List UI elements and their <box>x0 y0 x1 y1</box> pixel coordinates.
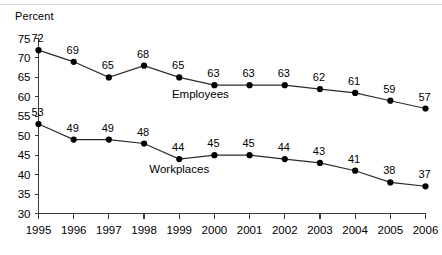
y-tick-label: 60 <box>18 91 31 103</box>
x-tick-label: 2005 <box>378 224 404 236</box>
x-tick-label: 2003 <box>307 224 333 236</box>
data-point-employees-1996 <box>71 59 77 65</box>
data-value-labels: 7269656865636363626159575349494844454544… <box>31 32 430 180</box>
data-label-employees-1997: 65 <box>102 59 114 71</box>
x-tick-label: 1999 <box>166 224 192 236</box>
data-point-workplaces-1999 <box>176 156 182 162</box>
data-point-employees-1997 <box>106 74 112 80</box>
x-tick-label: 1995 <box>26 224 52 236</box>
data-point-employees-2002 <box>282 82 288 88</box>
series-annotations: EmployeesWorkplaces <box>149 88 229 175</box>
data-point-employees-2001 <box>246 82 252 88</box>
x-tick-label: 1996 <box>61 224 87 236</box>
data-label-employees-2006: 57 <box>418 91 430 103</box>
data-label-workplaces-1997: 49 <box>102 122 114 134</box>
data-label-workplaces-1998: 48 <box>137 126 149 138</box>
x-tick-label: 1997 <box>96 224 122 236</box>
chart-canvas: 30354045505560657075 1995199619971998199… <box>0 0 442 255</box>
data-label-employees-2002: 63 <box>278 67 290 79</box>
data-point-employees-2003 <box>317 86 323 92</box>
data-label-workplaces-2004: 41 <box>348 153 360 165</box>
data-label-workplaces-1996: 49 <box>67 122 79 134</box>
data-point-workplaces-1997 <box>106 137 112 143</box>
data-label-workplaces-2001: 45 <box>242 137 254 149</box>
data-label-employees-2000: 63 <box>207 67 219 79</box>
data-label-employees-1999: 65 <box>172 59 184 71</box>
data-point-employees-2005 <box>387 98 393 104</box>
y-tick-label: 50 <box>18 130 31 142</box>
y-tick-label: 55 <box>18 110 31 122</box>
data-point-employees-1999 <box>176 74 182 80</box>
y-tick-label: 40 <box>18 169 31 181</box>
x-tick-label: 1998 <box>131 224 157 236</box>
data-label-employees-1995: 72 <box>31 32 43 44</box>
data-point-workplaces-2006 <box>422 183 428 189</box>
series-annotation-workplaces: Workplaces <box>149 163 209 175</box>
data-point-employees-1995 <box>35 47 41 53</box>
x-tick-label: 2000 <box>202 224 228 236</box>
data-point-workplaces-1996 <box>71 137 77 143</box>
data-label-employees-2001: 63 <box>242 67 254 79</box>
data-label-employees-2004: 61 <box>348 75 360 87</box>
data-point-employees-2000 <box>211 82 217 88</box>
data-point-workplaces-1998 <box>141 140 147 146</box>
x-tick-label: 2006 <box>413 224 439 236</box>
data-label-employees-2003: 62 <box>313 71 325 83</box>
data-point-workplaces-2000 <box>211 152 217 158</box>
data-label-workplaces-2003: 43 <box>313 145 325 157</box>
y-tick-label: 45 <box>18 149 31 161</box>
y-axis-ticks: 30354045505560657075 <box>18 33 39 220</box>
data-label-workplaces-2006: 37 <box>418 168 430 180</box>
x-tick-label: 2001 <box>237 224 263 236</box>
data-label-workplaces-2005: 38 <box>383 164 395 176</box>
data-point-employees-2004 <box>352 90 358 96</box>
y-tick-label: 35 <box>18 188 31 200</box>
data-point-employees-1998 <box>141 63 147 69</box>
x-tick-label: 2002 <box>272 224 298 236</box>
data-point-workplaces-1995 <box>35 121 41 127</box>
y-tick-label: 70 <box>18 52 31 64</box>
data-point-workplaces-2003 <box>317 160 323 166</box>
series-line-employees <box>39 50 426 108</box>
data-label-employees-1996: 69 <box>67 44 79 56</box>
data-label-employees-1998: 68 <box>137 48 149 60</box>
data-label-workplaces-1999: 44 <box>172 141 184 153</box>
data-label-workplaces-2002: 44 <box>278 141 290 153</box>
line-chart: Percent 30354045505560657075 19951996199… <box>0 0 442 255</box>
y-tick-label: 65 <box>18 71 31 83</box>
data-label-workplaces-2000: 45 <box>207 137 219 149</box>
x-axis-ticks: 1995199619971998199920002001200220032004… <box>26 214 439 236</box>
series-layer <box>35 47 428 189</box>
y-tick-label: 75 <box>18 33 31 45</box>
data-point-workplaces-2004 <box>352 168 358 174</box>
series-annotation-employees: Employees <box>172 88 229 100</box>
data-point-workplaces-2001 <box>246 152 252 158</box>
y-tick-label: 30 <box>18 208 31 220</box>
x-tick-label: 2004 <box>342 224 368 236</box>
data-point-workplaces-2002 <box>282 156 288 162</box>
data-label-employees-2005: 59 <box>383 83 395 95</box>
data-label-workplaces-1995: 53 <box>31 106 43 118</box>
data-point-workplaces-2005 <box>387 179 393 185</box>
series-line-workplaces <box>39 124 426 186</box>
data-point-employees-2006 <box>422 105 428 111</box>
